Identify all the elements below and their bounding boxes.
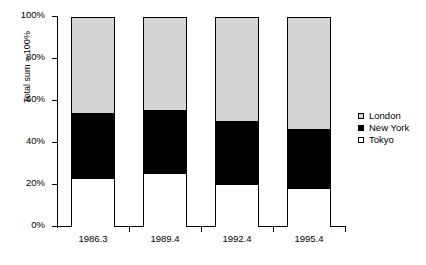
bar-1992-4[interactable] bbox=[215, 17, 259, 227]
x-tick-label-4: 1995.4 bbox=[294, 233, 323, 244]
bar-segment-tokyo bbox=[72, 178, 114, 228]
bar-1995-4[interactable] bbox=[287, 17, 331, 227]
bar-segment-tokyo bbox=[288, 188, 330, 228]
legend-item-new-york[interactable]: New York bbox=[358, 122, 409, 134]
y-tick-60: 60% bbox=[52, 100, 58, 101]
bar-segment-new-york bbox=[216, 121, 258, 184]
x-tick-label-1: 1986.3 bbox=[78, 233, 107, 244]
legend-swatch-london-icon bbox=[358, 113, 364, 119]
legend-swatch-tokyo-icon bbox=[358, 137, 364, 143]
y-tick-40: 40% bbox=[52, 142, 58, 143]
x-tick-label-2: 1989.4 bbox=[150, 233, 179, 244]
y-axis-line bbox=[57, 17, 58, 228]
x-tick-4 bbox=[345, 226, 346, 232]
y-tick-0: 0% bbox=[52, 226, 58, 227]
legend-label-london: London bbox=[369, 110, 401, 122]
x-tick-3 bbox=[273, 226, 274, 232]
y-tick-80: 80% bbox=[52, 58, 58, 59]
y-tick-20: 20% bbox=[52, 184, 58, 185]
stacked-bar-chart: Total sum = 100% 0% 20% 40% 60% 80% 100% bbox=[0, 0, 426, 265]
bar-1986-3[interactable] bbox=[71, 17, 115, 227]
legend-item-london[interactable]: London bbox=[358, 110, 409, 122]
bar-segment-london bbox=[72, 18, 114, 113]
bar-segment-new-york bbox=[144, 110, 186, 173]
legend: London New York Tokyo bbox=[358, 110, 409, 146]
bar-segment-tokyo bbox=[216, 184, 258, 228]
y-tick-100: 100% bbox=[52, 16, 58, 17]
bar-segment-london bbox=[144, 18, 186, 110]
x-tick-2 bbox=[201, 226, 202, 232]
bar-1989-4[interactable] bbox=[143, 17, 187, 227]
y-axis-title: Total sum = 100% bbox=[22, 0, 32, 142]
bar-segment-new-york bbox=[288, 129, 330, 188]
x-tick-label-3: 1992.4 bbox=[222, 233, 251, 244]
bar-segment-london bbox=[216, 18, 258, 121]
bar-segment-new-york bbox=[72, 113, 114, 178]
legend-label-new-york: New York bbox=[369, 122, 409, 134]
x-tick-1 bbox=[129, 226, 130, 232]
bar-segment-tokyo bbox=[144, 173, 186, 228]
legend-item-tokyo[interactable]: Tokyo bbox=[358, 134, 409, 146]
figure-caption bbox=[4, 260, 424, 265]
bar-segment-london bbox=[288, 18, 330, 129]
legend-label-tokyo: Tokyo bbox=[369, 134, 394, 146]
legend-swatch-new-york-icon bbox=[358, 125, 364, 131]
plot-area: 0% 20% 40% 60% 80% 100% bbox=[57, 17, 345, 227]
